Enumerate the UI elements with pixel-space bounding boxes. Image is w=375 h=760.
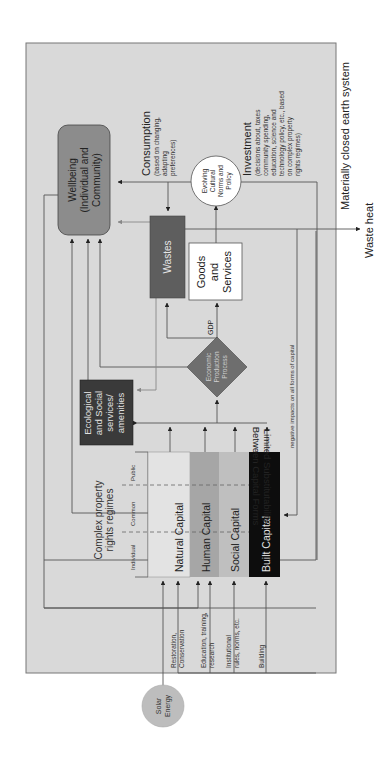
norms-line-3: Norms and [217,165,224,197]
norms-line-4: Policy [225,172,233,190]
investment-note-1: (decisions about, taxes [254,109,262,176]
wellbeing-line-1: Wellbeing [67,158,78,202]
diagram: Materially closed earth system Waste hea… [0,0,375,760]
wastes-label: Wastes [162,241,173,274]
gdp-label: GDP [207,320,214,336]
input-restoration: Restoration, Conservation [170,629,185,668]
investment-note-5: on complex property [286,116,294,176]
goods-line-2: and [208,263,220,281]
consumption-note-3: preferences) [169,140,177,177]
social-capital-label: Social Capital [229,508,241,572]
input-building-1: Building [258,644,266,668]
goods-line-1: Goods [195,255,207,288]
production-line-2: Production [213,351,220,382]
natural-capital-label: Natural Capital [173,503,185,572]
wellbeing-node: Wellbeing (Individual and Community) [58,125,110,235]
human-capital-label: Human Capital [200,503,212,572]
eco-services-node: Ecological and Social services/ amenitie… [80,380,133,445]
wastes-node: Wastes [150,216,185,298]
property-title-1: Complex property [93,481,104,560]
wellbeing-line-2: (Individual and [79,147,90,212]
goods-line-3: Services [221,250,233,293]
input-institutional-2: rules, norms, etc. [233,618,240,668]
input-restoration-2: Conservation [178,629,185,668]
goods-services-node: Goods and Services [189,243,242,300]
investment-note-6: rights regimes) [294,133,302,176]
eco-line-4: amenities [115,392,126,433]
investment-note-2: community spending, [262,114,270,176]
consumption-note-1: (based on changing, [153,117,161,176]
regime-common: Common [130,502,136,526]
input-education-1: Education, training, [200,612,208,668]
input-restoration-1: Restoration, [170,633,177,668]
input-building: Building [258,644,266,668]
investment-note-3: education, science and [270,109,277,176]
input-education-2: research [208,642,215,668]
negative-impacts-label: negative impacts on all forms of capital [289,345,295,448]
production-line-3: Process [221,355,228,379]
eco-line-2: and Social [93,391,104,435]
property-title-2: rights regimes [104,489,115,552]
consumption-title: Consumption [140,111,152,176]
investment-note-4: technology policy, etc., based [278,91,286,176]
regime-individual: Individual [130,545,136,570]
eco-line-1: Ecological [82,391,93,434]
investment-title: Investment [241,122,253,176]
substitutability-line-2: Between Capital Forms [251,427,262,526]
production-line-1: Economic [205,352,212,381]
cultural-norms-node: Evolving Cultural Norms and Policy [191,156,241,206]
substitutability-line-1: Limited Substitutability [262,429,273,524]
solar-line-1: Solar [155,697,162,714]
regime-public: Public [130,465,136,481]
norms-line-1: Evolving [201,168,209,193]
property-rights-label: Complex property rights regimes [93,481,115,560]
solar-line-2: Energy [164,694,172,717]
boundary-label: Materially closed earth system [339,62,351,210]
wellbeing-line-3: Community) [91,153,102,207]
consumption-note-2: adapting [161,151,169,176]
solar-energy-node: Solar Energy [142,685,184,727]
waste-heat-label: Waste heat [363,203,375,258]
input-institutional-1: Institutional [225,635,232,668]
eco-line-3: services/ [104,394,115,432]
norms-line-2: Cultural [209,169,216,192]
